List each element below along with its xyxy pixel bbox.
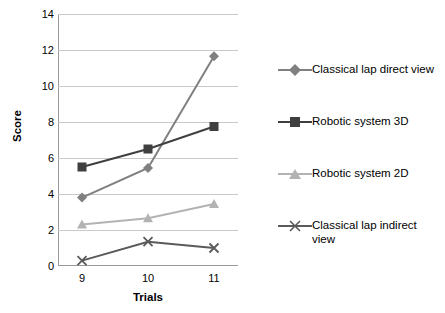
legend-item-robotic-system-3d: Robotic system 3D	[278, 114, 443, 144]
legend-marker-square-icon	[278, 115, 312, 129]
x-tick-10: 10	[133, 272, 163, 284]
y-axis-tick-labels: 14 12 10 8 6 4 2 0	[26, 14, 54, 266]
legend-item-classical-lap-indirect-view: Classical lap indirect view	[278, 218, 443, 248]
legend-label: Classical lap indirect view	[312, 218, 443, 246]
chart-legend: Classical lap direct view Robotic system…	[278, 62, 443, 270]
legend-label: Robotic system 3D	[312, 114, 409, 128]
x-tick-9: 9	[67, 272, 97, 284]
legend-item-robotic-system-2d: Robotic system 2D	[278, 166, 443, 196]
y-axis-title: Score	[11, 91, 23, 161]
y-tick-0: 0	[32, 261, 54, 272]
legend-item-classical-lap-direct-view: Classical lap direct view	[278, 62, 443, 92]
x-tick-11: 11	[199, 272, 229, 284]
legend-label: Classical lap direct view	[312, 62, 434, 76]
y-tick-2: 2	[32, 225, 54, 236]
x-axis-tick-labels: 9 10 11	[58, 0, 238, 300]
y-tick-8: 8	[32, 117, 54, 128]
y-tick-6: 6	[32, 153, 54, 164]
y-tick-4: 4	[32, 189, 54, 200]
x-axis-title: Trials	[58, 291, 238, 303]
legend-label: Robotic system 2D	[312, 166, 409, 180]
legend-marker-diamond-icon	[278, 63, 312, 77]
y-tick-12: 12	[32, 45, 54, 56]
line-chart: 14 12 10 8 6 4 2 0 Score 9 10 11 Trials	[0, 0, 445, 313]
y-tick-14: 14	[32, 9, 54, 20]
legend-marker-triangle-icon	[278, 167, 312, 181]
y-tick-10: 10	[32, 81, 54, 92]
legend-marker-cross-icon	[278, 219, 312, 233]
